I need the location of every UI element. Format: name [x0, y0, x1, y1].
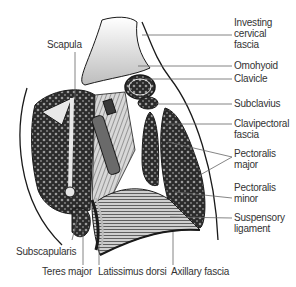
- label-pectoralis-major: Pectoralis major: [234, 148, 276, 170]
- label-clavipectoral-fascia: Clavipectoral fascia: [234, 118, 289, 140]
- label-pectoralis-minor: Pectoralis minor: [234, 182, 276, 204]
- scapula-region: [32, 90, 95, 214]
- label-scapula: Scapula: [47, 39, 82, 50]
- label-suspensory-ligament: Suspensory ligament: [234, 212, 285, 234]
- label-investing-cervical-fascia: Investing cervical fascia: [234, 17, 272, 50]
- label-teres-major: Teres major: [42, 266, 92, 277]
- label-omohyoid: Omohyoid: [234, 60, 278, 71]
- label-subscapularis: Subscapularis: [16, 246, 76, 257]
- label-clavicle: Clavicle: [234, 73, 267, 84]
- label-axillary-fascia: Axillary fascia: [171, 266, 229, 277]
- label-subclavius: Subclavius: [234, 98, 280, 109]
- subclavius-muscle: [138, 97, 158, 109]
- pectoralis-minor-muscle: [142, 112, 159, 186]
- label-latissimus-dorsi: Latissimus dorsi: [98, 266, 167, 277]
- neurovascular-bundle: [91, 92, 135, 205]
- teres-major-muscle: [72, 208, 90, 237]
